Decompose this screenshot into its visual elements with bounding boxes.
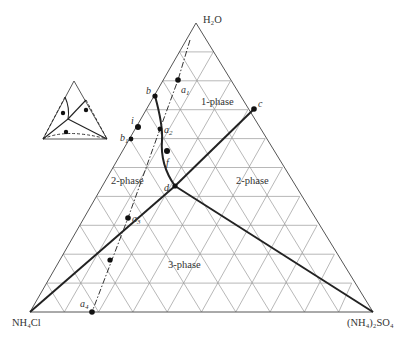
label-f: f — [166, 157, 170, 168]
region-label-2-phase-left: 2-phase — [111, 175, 144, 186]
point-b — [152, 93, 157, 98]
label-a3: a3 — [132, 213, 141, 226]
point-f — [164, 148, 170, 154]
point-a1 — [175, 77, 181, 83]
vertex-label-nh4cl: NH₄Cl — [12, 317, 41, 328]
inset-schematic — [43, 81, 107, 139]
label-a4: a4 — [80, 298, 89, 311]
label-b1: b1 — [120, 132, 129, 145]
point-mid-a3-a4 — [107, 257, 112, 262]
vertex-label-nh42so4: (NH₄)₂SO₄ — [347, 317, 394, 329]
region-label-3-phase: 3-phase — [168, 259, 201, 270]
region-label-2-phase-right: 2-phase — [236, 175, 269, 186]
point-a4 — [89, 309, 95, 315]
vertex-label-h2o: H₂O — [203, 14, 222, 25]
label-i: i — [131, 115, 134, 126]
label-a1: a1 — [181, 84, 190, 97]
point-d — [172, 183, 177, 188]
point-a2 — [158, 127, 163, 132]
point-c — [251, 106, 257, 112]
point-i — [135, 124, 141, 130]
point-a3 — [125, 215, 131, 221]
triangle-grid — [47, 52, 352, 312]
point-b1 — [129, 137, 134, 142]
region-label-1-phase: 1-phase — [201, 96, 234, 107]
tie-line-d-nh42so4 — [175, 186, 373, 312]
label-c: c — [258, 98, 263, 109]
tie-line-d-nh4cl — [30, 186, 175, 312]
data-points — [89, 77, 257, 315]
ternary-phase-diagram: a1 a2 a3 a4 b b1 i f c d 1-phase 2-phase… — [0, 0, 419, 339]
label-b: b — [146, 85, 151, 96]
